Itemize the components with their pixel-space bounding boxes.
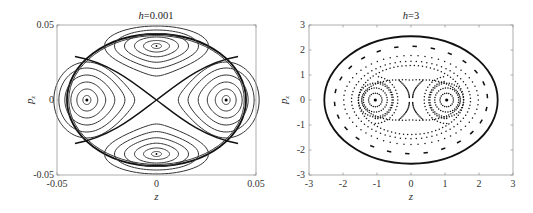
- panel-right: h=3 3 2 1 0 -1 -2 -3 -3 -2 -1 0 1 2 3 z …: [277, 10, 516, 202]
- panel-left: h=0.001 0.05 0 -0.05 -0.05 0 0.05 z pz: [23, 10, 265, 202]
- panel-right-title: h=3: [403, 10, 419, 21]
- x-tick-labels: -3 -2 -1 0 1 2 3: [305, 178, 516, 189]
- y-axis-label: pz: [23, 96, 37, 106]
- x-tick-label: 0: [154, 178, 159, 189]
- plot-frame: [309, 25, 513, 175]
- y-tick-label: 3: [300, 19, 305, 30]
- poincare-points: [324, 36, 497, 164]
- y-tick-label: 2: [300, 44, 305, 55]
- x-tick-label: 0.05: [247, 178, 265, 189]
- figure: h=0.001 0.05 0 -0.05 -0.05 0 0.05 z pz h…: [0, 0, 533, 213]
- y-tick-label: 0: [300, 94, 305, 105]
- x-tick-label: 2: [477, 178, 482, 189]
- phase-curves: [54, 26, 259, 174]
- y-tick-label: 0.05: [37, 19, 55, 30]
- x-tick-label: -2: [339, 178, 347, 189]
- y-tick-label: 0: [49, 94, 54, 105]
- x-tick-label: 0: [409, 178, 414, 189]
- y-tick-labels: 3 2 1 0 -1 -2 -3: [297, 19, 305, 180]
- x-axis-label: z: [153, 190, 159, 202]
- x-tick-label: -0.05: [47, 178, 68, 189]
- y-axis-label: pz: [277, 96, 291, 106]
- tick-marks: [309, 25, 513, 175]
- x-tick-label: 3: [511, 178, 516, 189]
- x-axis-label: z: [408, 190, 414, 202]
- x-tick-label: -3: [305, 178, 313, 189]
- y-tick-label: -1: [297, 119, 305, 130]
- x-tick-label: 1: [443, 178, 448, 189]
- y-tick-label: -3: [297, 169, 305, 180]
- x-tick-label: -1: [373, 178, 381, 189]
- y-tick-label: 1: [300, 69, 305, 80]
- panel-left-title: h=0.001: [139, 10, 174, 21]
- y-tick-label: -2: [297, 144, 305, 155]
